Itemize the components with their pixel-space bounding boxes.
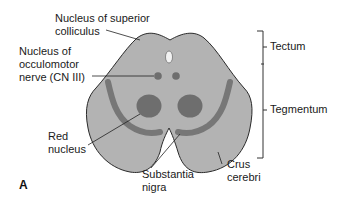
- label-substantia-nigra: Substantia nigra: [142, 168, 194, 194]
- midbrain-cross-section-diagram: Nucleus of superior colliculus Nucleus o…: [0, 0, 339, 204]
- red-nucleus-right: [178, 95, 203, 118]
- red-nucleus-left: [137, 95, 162, 118]
- label-tegmentum: Tegmentum: [270, 103, 327, 116]
- oculomotor-nucleus-right: [172, 72, 180, 80]
- label-oculomotor-nucleus: Nucleus of occulomotor nerve (CN III): [19, 45, 85, 84]
- region-bracket: [257, 31, 267, 158]
- panel-label: A: [19, 178, 28, 192]
- oculomotor-nucleus-left: [154, 72, 162, 80]
- label-tectum: Tectum: [270, 40, 305, 53]
- label-superior-colliculus: Nucleus of superior colliculus: [55, 12, 150, 38]
- label-crus-cerebri: Crus cerebri: [227, 158, 261, 184]
- cerebral-aqueduct: [166, 51, 173, 63]
- label-red-nucleus: Red nucleus: [48, 130, 86, 156]
